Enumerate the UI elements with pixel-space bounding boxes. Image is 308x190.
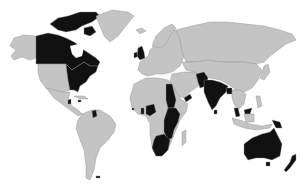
region-falklands xyxy=(96,176,100,178)
region-ghana xyxy=(141,108,144,114)
region-tasmania xyxy=(266,162,270,166)
region-sierra-leone xyxy=(132,108,134,110)
region-belize xyxy=(68,99,71,104)
region-ireland xyxy=(134,52,137,58)
region-jamaica xyxy=(78,100,81,102)
world-map xyxy=(0,0,308,190)
region-alaska xyxy=(10,35,36,60)
region-borneo xyxy=(244,114,254,122)
region-sri-lanka xyxy=(214,110,217,114)
region-bangladesh xyxy=(226,88,232,94)
